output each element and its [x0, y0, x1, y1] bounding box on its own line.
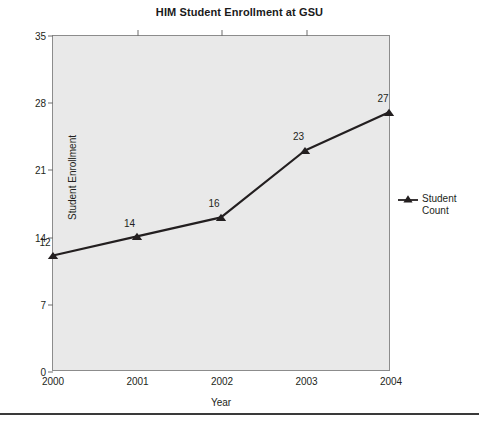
series-line-student-count: [53, 36, 389, 370]
x-axis-tick-label: 2000: [42, 370, 64, 387]
line-path-student-count: [53, 112, 389, 255]
legend-label-line1: Student: [422, 193, 474, 205]
plot-area: 0714212835 20002001200220032004 12141623…: [52, 35, 390, 371]
data-point-label: 16: [208, 198, 219, 209]
x-axis-title: Year: [52, 397, 390, 408]
chart-legend: Student Count: [398, 193, 474, 217]
data-point-label: 14: [124, 218, 135, 229]
legend-label-student-count: Student Count: [422, 193, 474, 217]
data-point-label: 12: [39, 237, 50, 248]
chart-figure: HIM Student Enrollment at GSU 0714212835…: [0, 0, 479, 423]
marker-group-student-count: [48, 109, 394, 259]
x-axis-tick-label: 2003: [295, 370, 317, 387]
footer-divider: [0, 413, 479, 415]
footer-note: [56, 416, 276, 423]
x-axis-tick-label: 2001: [126, 370, 148, 387]
chart-title: HIM Student Enrollment at GSU: [0, 6, 479, 18]
y-axis-title: Student Enrollment: [67, 98, 78, 258]
legend-label-line2: Count: [422, 205, 474, 217]
data-point-label: 27: [377, 93, 388, 104]
x-axis-tick-label: 2002: [211, 370, 233, 387]
x-axis-tick-label: 2004: [380, 370, 402, 387]
data-point-label: 23: [293, 131, 304, 142]
data-point-marker: [384, 109, 394, 116]
legend-marker-triangle-icon: [398, 193, 418, 207]
